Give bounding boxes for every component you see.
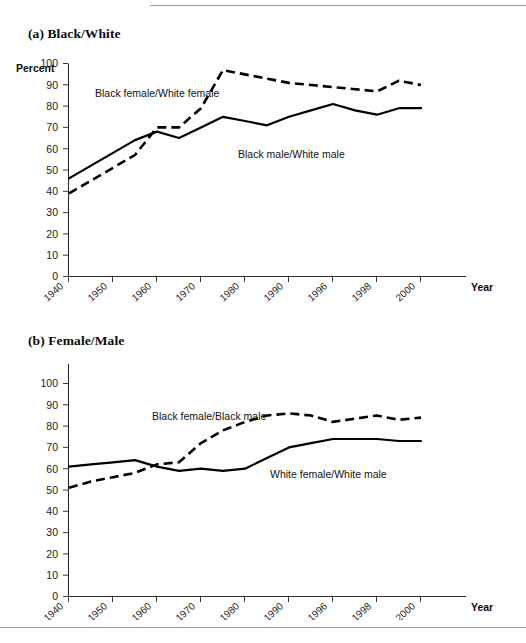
panel-a-xtick-2000: 2000	[393, 280, 417, 303]
panel-a-y-ticks: 0 10 20 30 40 50 60 70 80 90 100	[40, 57, 68, 282]
panel-a-ytick-10: 10	[46, 249, 58, 261]
panel-b-label-black-female-black-male: Black female/Black male	[152, 410, 267, 422]
panel-b-xtick-1940: 1940	[41, 600, 65, 620]
panel-a-x-ticks: 1940 1950 1960 1970 1980 1990 1996 1998 …	[41, 277, 420, 304]
panel-b-xtick-1970: 1970	[173, 600, 197, 620]
panel-a-ytick-100: 100	[40, 57, 58, 69]
panel-b-x-ticks: 1940 1950 1960 1970 1980 1990 1996 1998 …	[41, 597, 420, 621]
panel-a-label-black-male-white-male: Black male/White male	[238, 148, 345, 160]
panel-a-xtick-1990: 1990	[261, 280, 285, 303]
panel-a-ytick-90: 90	[46, 79, 58, 91]
panel-a-ytick-50: 50	[46, 164, 58, 176]
figure-page: (a) Black/White Percent Year 0	[0, 0, 526, 643]
panel-a-ytick-20: 20	[46, 228, 58, 240]
panel-b-ytick-10: 10	[46, 569, 58, 581]
panel-b-xtick-1996: 1996	[305, 600, 329, 620]
panel-b-xtick-1960: 1960	[129, 600, 153, 620]
panel-b-ytick-50: 50	[46, 484, 58, 496]
panel-b-ytick-20: 20	[46, 548, 58, 560]
panel-a-series-black-male-white-male	[69, 104, 421, 178]
panel-a-ytick-30: 30	[46, 206, 58, 218]
chart-panel-a: (a) Black/White Percent Year 0	[0, 0, 526, 320]
panel-a-xtick-1996: 1996	[305, 280, 329, 303]
panel-a-xtick-1980: 1980	[217, 280, 241, 303]
panel-b-xtick-2000: 2000	[393, 600, 417, 620]
panel-a-xtick-1950: 1950	[85, 280, 109, 303]
panel-b-xtick-1990: 1990	[261, 600, 285, 620]
panel-b-series-white-female-white-male	[69, 439, 421, 471]
panel-b-plot: 0 10 20 30 40 50 60 70 80 90 100	[0, 320, 526, 620]
panel-a-ytick-40: 40	[46, 185, 58, 197]
panel-b-ytick-80: 80	[46, 420, 58, 432]
panel-b-xtick-1980: 1980	[217, 600, 241, 620]
panel-b-xtick-1998: 1998	[349, 600, 373, 620]
panel-b-ytick-90: 90	[46, 399, 58, 411]
panel-a-ytick-60: 60	[46, 143, 58, 155]
panel-a-xtick-1940: 1940	[41, 280, 65, 303]
panel-a-xtick-1998: 1998	[349, 280, 373, 303]
panel-b-ytick-30: 30	[46, 526, 58, 538]
bottom-divider-rule	[0, 627, 526, 628]
panel-a-xtick-1960: 1960	[129, 280, 153, 303]
panel-a-plot: 0 10 20 30 40 50 60 70 80 90 100	[0, 0, 526, 320]
panel-a-xtick-1970: 1970	[173, 280, 197, 303]
panel-a-label-black-female-white-female: Black female/White female	[95, 87, 219, 99]
panel-b-label-white-female-white-male: White female/White male	[270, 468, 387, 480]
panel-b-ytick-70: 70	[46, 441, 58, 453]
panel-a-ytick-80: 80	[46, 100, 58, 112]
panel-a-ytick-70: 70	[46, 121, 58, 133]
panel-b-ytick-60: 60	[46, 463, 58, 475]
panel-b-ytick-40: 40	[46, 505, 58, 517]
panel-b-y-ticks: 0 10 20 30 40 50 60 70 80 90 100	[40, 377, 68, 602]
chart-panel-b: (b) Female/Male Percent Year 0 10 20	[0, 320, 526, 620]
panel-b-ytick-100: 100	[40, 377, 58, 389]
panel-b-xtick-1950: 1950	[85, 600, 109, 620]
